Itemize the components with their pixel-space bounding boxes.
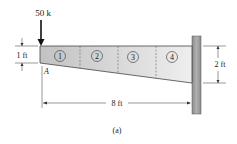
svg-text:2: 2 [95, 52, 99, 61]
fixed-wall-support [192, 36, 201, 114]
load-label: 50 k [35, 8, 51, 18]
svg-text:1: 1 [58, 52, 62, 61]
left-depth-label: 1 ft [17, 51, 29, 60]
svg-text:4: 4 [170, 53, 174, 62]
load-arrow-icon [38, 20, 45, 46]
tapered-cantilever-diagram: 1 2 3 4 50 k 1 ft A 2 ft [0, 0, 237, 144]
point-a-label: A [43, 67, 49, 76]
length-label: 8 ft [112, 99, 124, 108]
figure-caption: (a) [113, 126, 122, 135]
right-depth-label: 2 ft [215, 60, 227, 69]
svg-text:3: 3 [131, 53, 135, 62]
